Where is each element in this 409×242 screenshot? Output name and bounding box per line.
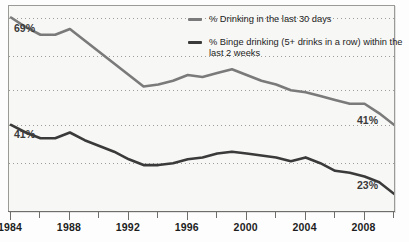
legend-item-binge-drinking: % Binge drinking (5+ drinks in a row) wi… [188,37,403,60]
x-tick-1996 [187,212,188,220]
x-axis-label-1992: 1992 [116,221,140,233]
x-tick-2004 [305,212,306,220]
x-tick-1986 [39,212,40,218]
x-axis-label-1996: 1996 [175,221,199,233]
x-tick-1990 [98,212,99,218]
x-axis-line [8,211,395,212]
chart-legend: % Drinking in the last 30 days % Binge d… [188,14,403,71]
legend-item-label: % Binge drinking (5+ drinks in a row) wi… [209,37,403,60]
value-label-start-top: 69% [14,22,35,34]
x-tick-2008 [364,212,365,220]
x-tick-2010 [393,212,394,218]
x-tick-1992 [128,212,129,220]
x-axis-label-2000: 2000 [234,221,258,233]
legend-item-label: % Drinking in the last 30 days [209,14,331,26]
legend-swatch-icon [188,41,202,44]
value-label-end-bottom: 23% [357,179,378,191]
x-tick-2000 [246,212,247,220]
x-axis-label-1988: 1988 [57,221,81,233]
chart-root: 1984198819921996200020042008 69% 41% 41%… [0,0,409,242]
x-axis-label-2004: 2004 [293,221,317,233]
x-tick-1994 [157,212,158,218]
value-label-end-top: 41% [357,114,378,126]
x-axis-label-2008: 2008 [351,221,375,233]
series-line-binge-drinking [11,125,394,194]
x-tick-1984 [10,212,11,220]
x-axis-label-1984: 1984 [0,221,22,233]
value-label-start-bottom: 41% [14,128,35,140]
x-tick-1988 [69,212,70,220]
x-tick-1998 [216,212,217,218]
x-tick-2006 [334,212,335,218]
legend-item-drinking-30-days: % Drinking in the last 30 days [188,14,403,26]
x-tick-2002 [275,212,276,218]
legend-swatch-icon [188,18,202,21]
